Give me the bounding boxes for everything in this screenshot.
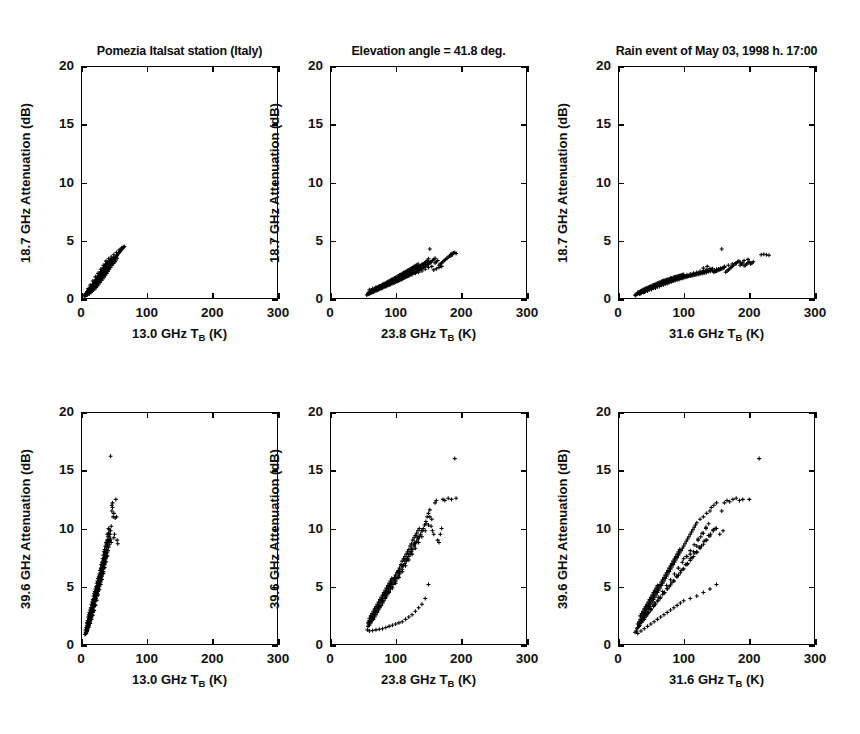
y-tick-label: 20 — [308, 404, 323, 419]
y-tick — [618, 645, 624, 647]
x-tick-label: 0 — [614, 651, 622, 666]
x-tick — [278, 293, 280, 299]
x-tick-label: 200 — [201, 651, 224, 666]
x-axis-title: 31.6 GHz TB (K) — [669, 326, 764, 343]
x-axis-title-text: 13.0 GHz T — [132, 326, 198, 341]
x-axis-title-text: 13.0 GHz T — [132, 672, 198, 687]
scatter-points — [633, 247, 771, 298]
y-axis-title: 39.6 GHz Attenuation (dB) — [267, 449, 282, 609]
x-axis-title-unit: (K) — [205, 672, 227, 687]
scatter-panel-panel-r2c1: 05101520010020030013.0 GHz TB (K)39.6 GH… — [81, 412, 278, 645]
x-tick-top — [278, 412, 280, 418]
x-tick — [278, 639, 280, 645]
x-tick-label: 200 — [450, 651, 473, 666]
x-axis-title-unit: (K) — [454, 672, 476, 687]
y-tick-label: 15 — [308, 116, 323, 131]
y-tick-right — [521, 645, 527, 647]
x-tick-label: 0 — [77, 305, 85, 320]
y-axis-title: 39.6 GHz Attenuation (dB) — [18, 449, 33, 609]
x-axis-title: 31.6 GHz TB (K) — [669, 672, 764, 689]
scatter-points — [633, 457, 761, 636]
y-tick-label: 0 — [315, 291, 323, 306]
y-axis-title: 18.7 GHz Attenuation (dB) — [267, 103, 282, 263]
x-tick-top — [278, 66, 280, 72]
y-tick-label: 0 — [66, 291, 74, 306]
x-tick-label: 200 — [450, 305, 473, 320]
y-tick-label: 5 — [603, 579, 611, 594]
scatter-points — [82, 245, 126, 299]
x-tick-top — [815, 412, 817, 418]
y-tick-right — [272, 645, 278, 647]
y-tick-right — [521, 299, 527, 301]
x-tick-top — [527, 66, 529, 72]
x-tick-label: 300 — [516, 305, 539, 320]
y-tick-label: 0 — [66, 637, 74, 652]
x-axis-title-unit: (K) — [205, 326, 227, 341]
y-tick-label: 0 — [315, 637, 323, 652]
x-tick-top — [527, 412, 529, 418]
x-tick-label: 0 — [77, 651, 85, 666]
x-tick-label: 100 — [672, 305, 695, 320]
y-tick-label: 20 — [308, 58, 323, 73]
x-axis-title: 23.8 GHz TB (K) — [381, 672, 476, 689]
x-tick-label: 300 — [516, 651, 539, 666]
x-axis-title-text: 31.6 GHz T — [669, 672, 735, 687]
y-tick — [330, 299, 336, 301]
scatter-panel-panel-r1c1: Pomezia Italsat station (Italy)051015200… — [81, 66, 278, 299]
scatter-points — [365, 247, 458, 297]
x-tick-label: 300 — [267, 305, 290, 320]
x-tick-label: 100 — [672, 651, 695, 666]
x-tick-label: 200 — [201, 305, 224, 320]
figure-root: Pomezia Italsat station (Italy)051015200… — [0, 0, 860, 734]
scatter-layer — [330, 412, 527, 645]
y-axis-title: 18.7 GHz Attenuation (dB) — [555, 103, 570, 263]
x-tick — [815, 293, 817, 299]
panel-title: Pomezia Italsat station (Italy) — [97, 44, 262, 58]
x-axis-title-unit: (K) — [454, 326, 476, 341]
y-tick-right — [272, 299, 278, 301]
scatter-layer — [81, 412, 278, 645]
y-tick-label: 15 — [59, 116, 74, 131]
x-tick-label: 300 — [267, 651, 290, 666]
x-tick — [527, 639, 529, 645]
x-axis-title-text: 23.8 GHz T — [381, 672, 447, 687]
x-tick-label: 0 — [326, 651, 334, 666]
scatter-panel-panel-r2c2: 05101520010020030023.8 GHz TB (K)39.6 GH… — [330, 412, 527, 645]
scatter-layer — [618, 66, 815, 299]
scatter-points — [83, 454, 120, 636]
y-tick-label: 5 — [315, 233, 323, 248]
y-tick-label: 10 — [596, 175, 611, 190]
x-tick-label: 300 — [804, 651, 827, 666]
x-axis-title: 13.0 GHz TB (K) — [132, 672, 227, 689]
y-tick-label: 5 — [66, 233, 74, 248]
y-tick-label: 10 — [308, 175, 323, 190]
y-tick-label: 5 — [66, 579, 74, 594]
y-axis-title: 39.6 GHz Attenuation (dB) — [555, 449, 570, 609]
x-tick-label: 100 — [135, 651, 158, 666]
x-axis-title-text: 23.8 GHz T — [381, 326, 447, 341]
y-tick-label: 15 — [59, 462, 74, 477]
x-tick-label: 100 — [384, 651, 407, 666]
y-tick-label: 20 — [59, 58, 74, 73]
y-tick-label: 10 — [596, 521, 611, 536]
scatter-layer — [618, 412, 815, 645]
x-tick-label: 200 — [738, 651, 761, 666]
x-tick-top — [815, 66, 817, 72]
y-tick-right — [809, 645, 815, 647]
y-tick-label: 15 — [596, 116, 611, 131]
scatter-panel-panel-r1c2: Elevation angle = 41.8 deg.0510152001002… — [330, 66, 527, 299]
y-tick-label: 20 — [596, 58, 611, 73]
panel-title: Elevation angle = 41.8 deg. — [351, 44, 505, 58]
x-tick-label: 200 — [738, 305, 761, 320]
y-tick-right — [809, 299, 815, 301]
scatter-points — [365, 457, 458, 633]
y-tick — [81, 299, 87, 301]
x-tick — [527, 293, 529, 299]
x-tick-label: 0 — [614, 305, 622, 320]
scatter-layer — [81, 66, 278, 299]
scatter-panel-panel-r2c3: 05101520010020030031.6 GHz TB (K)39.6 GH… — [618, 412, 815, 645]
panel-title: Rain event of May 03, 1998 h. 17:00 — [616, 44, 817, 58]
y-tick-label: 15 — [308, 462, 323, 477]
x-tick-label: 100 — [384, 305, 407, 320]
y-tick-label: 5 — [315, 579, 323, 594]
